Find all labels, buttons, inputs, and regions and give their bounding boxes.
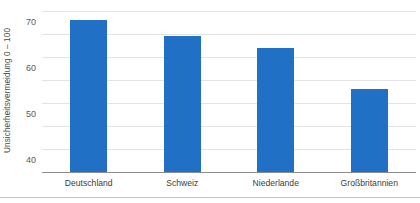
x-axis-tick-label: Deutschland: [65, 178, 113, 188]
y-axis-tick-label: 50: [26, 109, 36, 119]
x-axis-tick-label: Schweiz: [166, 178, 198, 188]
y-axis-tick-label: 40: [26, 155, 36, 165]
y-axis-tick-label: 30: [26, 201, 36, 203]
x-axis-tick-label: Niederlande: [253, 178, 299, 188]
y-axis-tick-label: 70: [26, 17, 36, 27]
y-axis-title-label: Unsicherheitsvermeidung 0 – 100: [4, 27, 13, 152]
bar-chart: Unsicherheitsvermeidung 0 – 100 01020304…: [0, 0, 420, 203]
bar: [257, 48, 294, 172]
x-axis-tick-label: Großbritannien: [341, 178, 398, 188]
plot-area: 010203040506070DeutschlandSchweizNiederl…: [42, 0, 416, 203]
bottom-divider: [0, 197, 420, 198]
x-axis-baseline: 0: [42, 172, 416, 173]
y-axis-tick-label: 60: [26, 63, 36, 73]
bar: [164, 36, 201, 172]
gridline: 70: [42, 11, 416, 12]
y-axis-title: Unsicherheitsvermeidung 0 – 100: [0, 0, 16, 180]
bar: [70, 20, 107, 172]
bar: [351, 89, 388, 172]
